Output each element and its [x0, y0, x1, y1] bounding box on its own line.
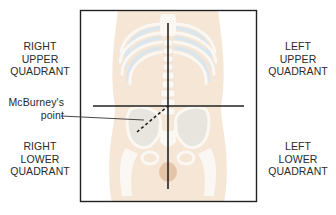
label-line: RIGHT [2, 140, 78, 153]
label-line: QUADRANT [260, 165, 336, 178]
label-line: point [4, 109, 64, 122]
label-line: LOWER [2, 153, 78, 166]
label-line: LOWER [260, 153, 336, 166]
label-line: LEFT [260, 40, 336, 53]
mcburneys-point-label: McBurney's point [4, 96, 64, 121]
label-line: UPPER [2, 53, 78, 66]
label-line: QUADRANT [2, 165, 78, 178]
right-lower-quadrant-label: RIGHT LOWER QUADRANT [2, 140, 78, 178]
label-line: McBurney's [4, 96, 64, 109]
label-line: QUADRANT [260, 65, 336, 78]
label-line: QUADRANT [2, 65, 78, 78]
label-line: UPPER [260, 53, 336, 66]
left-upper-quadrant-label: LEFT UPPER QUADRANT [260, 40, 336, 78]
label-line: LEFT [260, 140, 336, 153]
right-upper-quadrant-label: RIGHT UPPER QUADRANT [2, 40, 78, 78]
label-line: RIGHT [2, 40, 78, 53]
left-lower-quadrant-label: LEFT LOWER QUADRANT [260, 140, 336, 178]
